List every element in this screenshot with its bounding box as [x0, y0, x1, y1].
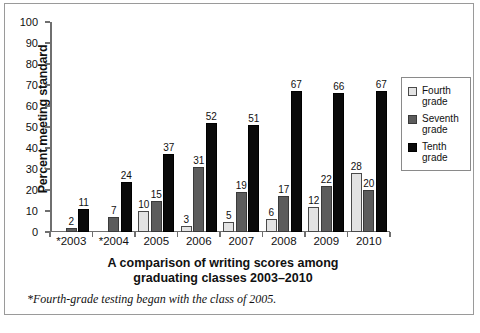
y-tick-label: 80: [26, 58, 38, 70]
bar[interactable]: [278, 196, 289, 232]
bar-group: 2820672010: [348, 22, 391, 232]
bar-group: 211*2003: [50, 22, 93, 232]
x-category-label: *2004: [93, 235, 136, 247]
bar-value-label: 2: [68, 216, 74, 227]
bar[interactable]: [248, 125, 259, 232]
bar-value-label: 6: [268, 207, 274, 218]
bar-value-label: 28: [351, 161, 362, 172]
chart-title-line-2: graduating classes 2003–2010: [33, 271, 413, 286]
bar[interactable]: [108, 217, 119, 232]
bar[interactable]: [333, 93, 344, 232]
bar[interactable]: [66, 228, 77, 232]
bar[interactable]: [321, 186, 332, 232]
legend-label: grade: [422, 96, 451, 107]
bar-value-label: 15: [151, 189, 162, 200]
bar-value-label: 7: [111, 205, 117, 216]
black-swatch: [408, 143, 417, 152]
bar-value-label: 51: [248, 113, 259, 124]
bar-value-label: 66: [333, 81, 344, 92]
bar[interactable]: [138, 211, 149, 232]
y-tick-label: 100: [20, 16, 38, 28]
bar[interactable]: [193, 167, 204, 232]
bar-value-label: 11: [79, 197, 89, 208]
bar-value-label: 31: [193, 155, 204, 166]
y-tick-label: 70: [26, 79, 38, 91]
bar-value-label: 10: [138, 199, 149, 210]
footnote: *Fourth-grade testing began with the cla…: [27, 292, 447, 307]
legend-item[interactable]: Seventhgrade: [408, 113, 464, 135]
y-tick-label: 50: [26, 121, 38, 133]
legend-label: Tenth: [422, 141, 448, 152]
bar-value-label: 3: [183, 214, 189, 225]
bar[interactable]: [308, 207, 319, 232]
figure-caption: [4, 320, 474, 332]
figure-frame: Percent meeting standard 010203040506070…: [4, 3, 474, 315]
bar-value-label: 17: [278, 184, 289, 195]
bar[interactable]: [351, 173, 362, 232]
dark-gray-swatch: [408, 115, 417, 124]
x-category-label: 2006: [178, 235, 221, 247]
bar-group: 1015372005: [135, 22, 178, 232]
x-category-label: 2009: [305, 235, 348, 247]
bar[interactable]: [363, 190, 374, 232]
legend-label: Fourth: [422, 85, 451, 96]
y-tick-label: 10: [26, 205, 38, 217]
bar-group: 331522006: [178, 22, 221, 232]
y-tick-label: 30: [26, 163, 38, 175]
bar-value-label: 37: [163, 142, 174, 153]
x-category-label: 2007: [220, 235, 263, 247]
plot-area: 0102030405060708090100 211*2003724*20041…: [50, 22, 390, 232]
light-gray-swatch: [408, 87, 417, 96]
y-tick-label: 90: [26, 37, 38, 49]
x-category-label: 2010: [348, 235, 391, 247]
legend-item[interactable]: Tenthgrade: [408, 141, 464, 163]
bar[interactable]: [181, 226, 192, 232]
bar[interactable]: [291, 91, 302, 232]
bar-value-label: 24: [121, 170, 132, 181]
bar[interactable]: [223, 222, 234, 233]
bar[interactable]: [163, 154, 174, 232]
legend-label: grade: [422, 124, 459, 135]
bar-value-label: 52: [206, 111, 217, 122]
y-tick-label: 40: [26, 142, 38, 154]
legend-item[interactable]: Fourthgrade: [408, 85, 464, 107]
bar[interactable]: [151, 201, 162, 233]
bar-value-label: 12: [308, 195, 319, 206]
bar-value-label: 67: [376, 79, 387, 90]
bar[interactable]: [236, 192, 247, 232]
legend-label: grade: [422, 152, 448, 163]
y-tick-label: 20: [26, 184, 38, 196]
bar-value-label: 22: [321, 174, 332, 185]
legend: FourthgradeSeventhgradeTenthgrade: [401, 77, 471, 171]
bar-value-label: 20: [363, 178, 374, 189]
bar[interactable]: [78, 209, 89, 232]
bar[interactable]: [376, 91, 387, 232]
bar-value-label: 67: [291, 79, 302, 90]
bar-value-label: 5: [226, 210, 232, 221]
bar[interactable]: [266, 219, 277, 232]
chart-title-line-1: A comparison of writing scores among: [33, 256, 413, 271]
bar[interactable]: [121, 182, 132, 232]
chart-title: A comparison of writing scores among gra…: [33, 256, 413, 286]
bar-group: 617672008: [263, 22, 306, 232]
bar-group: 519512007: [220, 22, 263, 232]
bar[interactable]: [206, 123, 217, 232]
bar-group: 1222662009: [305, 22, 348, 232]
x-category-label: 2005: [135, 235, 178, 247]
y-tick-label: 0: [32, 226, 38, 238]
y-tick-label: 60: [26, 100, 38, 112]
bar-value-label: 19: [236, 180, 247, 191]
x-category-label: 2008: [263, 235, 306, 247]
x-category-label: *2003: [50, 235, 93, 247]
bar-group: 724*2004: [93, 22, 136, 232]
legend-label: Seventh: [422, 113, 459, 124]
